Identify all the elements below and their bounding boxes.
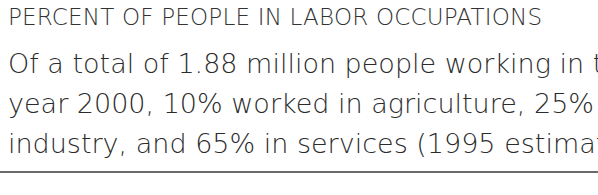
divider bbox=[0, 171, 598, 173]
section-body: Of a total of 1.88 million people workin… bbox=[8, 44, 598, 164]
section-heading: PERCENT OF PEOPLE IN LABOR OCCUPATIONS bbox=[8, 2, 542, 32]
body-line: Of a total of 1.88 million people workin… bbox=[8, 44, 598, 84]
body-line: year 2000, 10% worked in agriculture, 25… bbox=[8, 84, 598, 124]
body-line: industry, and 65% in services (1995 esti… bbox=[8, 124, 598, 164]
